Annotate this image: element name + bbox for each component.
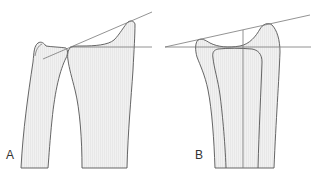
panel-b-label: B (195, 148, 203, 162)
panel-b (165, 15, 311, 168)
panel-a (21, 12, 152, 168)
panel-b-radius-outer (196, 24, 280, 168)
panel-b-oblique-line (165, 15, 310, 47)
panel-a-label: A (6, 148, 14, 162)
anatomy-diagram (0, 0, 315, 172)
panel-a-ulna (21, 42, 68, 168)
panel-a-radius (68, 21, 135, 168)
